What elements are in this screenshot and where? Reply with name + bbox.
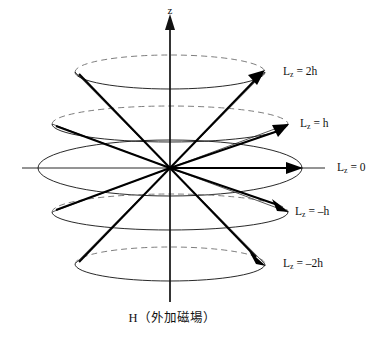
- level-label-symbol-lz-h: L: [300, 117, 307, 129]
- background: [0, 0, 387, 342]
- angular-momentum-quantization-diagram: z Lz = 2h Lz = h Lz = 0 Lz = –h Lz = –2h…: [0, 0, 387, 342]
- level-label-lz-2h: Lz = 2h: [283, 65, 317, 79]
- level-label-symbol-lz-2h: L: [283, 65, 290, 77]
- figure-caption: H（外加磁場）: [128, 310, 215, 325]
- level-label-value-lz-2h: = 2h: [294, 65, 318, 77]
- level-label-symbol-lz-minus-h: L: [295, 205, 302, 217]
- z-axis-label: z: [168, 4, 173, 16]
- figure-canvas: z Lz = 2h Lz = h Lz = 0 Lz = –h Lz = –2h…: [0, 0, 387, 342]
- level-label-lz-minus-2h: Lz = –2h: [283, 257, 323, 271]
- level-label-lz-minus-h: Lz = –h: [295, 205, 329, 219]
- level-label-symbol-lz-minus-2h: L: [283, 257, 290, 269]
- level-label-lz-h: Lz = h: [300, 117, 329, 131]
- level-label-value-lz-h: = h: [311, 117, 329, 129]
- level-label-value-lz-minus-h: = –h: [306, 205, 330, 217]
- level-label-lz-0: Lz = 0: [337, 161, 366, 175]
- level-label-value-lz-minus-2h: = –2h: [294, 257, 324, 269]
- level-label-value-lz-0: = 0: [348, 161, 366, 173]
- level-label-symbol-lz-0: L: [337, 161, 344, 173]
